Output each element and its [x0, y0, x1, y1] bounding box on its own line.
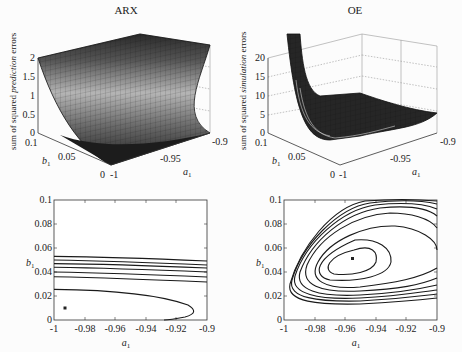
svg-text:-0.9: -0.9 [212, 136, 228, 147]
svg-text:-1: -1 [280, 323, 288, 334]
svg-text:15: 15 [255, 71, 265, 82]
svg-text:-0.98: -0.98 [75, 323, 96, 334]
svg-text:-0.9: -0.9 [429, 323, 445, 334]
oe-contour-y-label: b1 [256, 257, 265, 270]
svg-text:-0.95: -0.95 [390, 153, 411, 164]
svg-text:-0.9: -0.9 [440, 136, 456, 147]
svg-text:-1: -1 [339, 169, 347, 180]
svg-text:-0.96: -0.96 [105, 323, 126, 334]
svg-text:0.1: 0.1 [270, 194, 283, 205]
oe-contour-plot: 0 0.02 0.04 0.06 0.08 0.1 -1 -0.98 -0.96… [256, 194, 445, 350]
oe-a-ticks: -1 -0.95 -0.9 [339, 136, 456, 180]
svg-text:-0.94: -0.94 [366, 323, 387, 334]
svg-text:0.02: 0.02 [35, 290, 53, 301]
arx-contour-x-label: a1 [122, 337, 131, 350]
svg-text:0: 0 [330, 169, 335, 180]
svg-text:0.05: 0.05 [288, 151, 306, 162]
svg-text:0.08: 0.08 [35, 218, 53, 229]
arx-minimum-marker [64, 307, 67, 310]
svg-text:1: 1 [30, 90, 35, 101]
arx-b-label: b1 [42, 155, 51, 168]
svg-text:-0.95: -0.95 [160, 153, 181, 164]
arx-title: ARX [114, 4, 137, 16]
oe-title: OE [348, 4, 363, 16]
svg-text:2: 2 [30, 52, 35, 63]
svg-text:-1: -1 [50, 323, 58, 334]
svg-text:0.1: 0.1 [255, 137, 268, 148]
svg-text:5: 5 [260, 109, 265, 120]
oe-contour-y-ticks: 0 0.02 0.04 0.06 0.08 0.1 [265, 194, 283, 325]
figure: ARX 0 0.5 1 1.5 2 0.1 [0, 0, 462, 352]
svg-text:0.06: 0.06 [35, 242, 53, 253]
arx-contour-y-label: b1 [26, 257, 35, 270]
arx-contour-x-ticks: -1 -0.98 -0.96 -0.94 -0.92 -0.9 [50, 323, 215, 334]
arx-z-ticks: 0 0.5 1 1.5 2 [23, 52, 36, 138]
svg-text:0.06: 0.06 [265, 242, 283, 253]
svg-text:-0.98: -0.98 [305, 323, 326, 334]
arx-contour-y-ticks: 0 0.02 0.04 0.06 0.08 0.1 [35, 194, 53, 325]
svg-text:0.5: 0.5 [23, 109, 36, 120]
arx-surface-plot: ARX 0 0.5 1 1.5 2 0.1 [8, 4, 228, 180]
oe-z-label: sum of squared simulation errors [238, 31, 248, 150]
svg-text:0.1: 0.1 [25, 137, 38, 148]
oe-contour-axes [284, 200, 437, 320]
svg-text:0: 0 [100, 169, 105, 180]
svg-text:20: 20 [255, 52, 265, 63]
svg-text:-1: -1 [110, 169, 118, 180]
svg-text:0.05: 0.05 [58, 151, 76, 162]
svg-text:0.1: 0.1 [40, 194, 53, 205]
oe-contour-x-ticks: -1 -0.98 -0.96 -0.94 -0.92 -0.9 [280, 323, 445, 334]
svg-text:10: 10 [255, 90, 265, 101]
oe-a-label: a1 [412, 166, 421, 179]
oe-contour-x-label: a1 [352, 337, 361, 350]
svg-text:-0.92: -0.92 [396, 323, 417, 334]
svg-text:-0.96: -0.96 [335, 323, 356, 334]
oe-minimum-marker [351, 257, 354, 260]
oe-b-ticks: 0.1 0.05 0 [255, 137, 335, 180]
svg-text:0.02: 0.02 [265, 290, 283, 301]
arx-a-label: a1 [183, 166, 192, 179]
arx-contour-plot: 0 0.02 0.04 0.06 0.08 0.1 -1 -0.98 -0.96… [26, 194, 215, 350]
svg-text:-0.94: -0.94 [136, 323, 157, 334]
svg-text:-0.92: -0.92 [166, 323, 187, 334]
oe-surface-plot: OE 0 5 10 15 20 [238, 4, 456, 180]
svg-text:0.04: 0.04 [35, 266, 53, 277]
oe-b-label: b1 [272, 155, 281, 168]
svg-text:1.5: 1.5 [23, 71, 36, 82]
oe-z-ticks: 0 5 10 15 20 [255, 52, 265, 138]
svg-text:0.08: 0.08 [265, 218, 283, 229]
svg-text:0.04: 0.04 [265, 266, 283, 277]
svg-text:-0.9: -0.9 [199, 323, 215, 334]
arx-z-label: sum of squared prediction errors [8, 32, 18, 150]
